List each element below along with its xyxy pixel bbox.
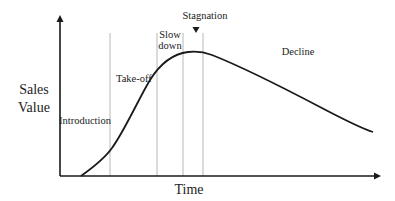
stage-label-takeoff: Take-off (116, 73, 152, 84)
x-axis-label: Time (174, 182, 203, 197)
stage-label-slow-line2: down (158, 40, 182, 51)
x-axis-arrow-icon (374, 173, 381, 180)
stage-label-slow-line1: Slow (159, 29, 181, 40)
stagnation-down-arrow-icon (193, 27, 200, 33)
product-life-cycle-diagram: Sales Value Time Introduction Take-off S… (0, 0, 395, 201)
stage-label-decline: Decline (282, 46, 315, 57)
y-axis-label-line1: Sales (19, 82, 49, 97)
y-axis-arrow-icon (57, 15, 64, 22)
stage-label-stagnation: Stagnation (183, 10, 229, 21)
y-axis-label-line2: Value (18, 100, 50, 115)
stage-label-introduction: Introduction (59, 115, 112, 126)
sales-curve (81, 52, 373, 176)
stage-dividers (110, 33, 203, 176)
